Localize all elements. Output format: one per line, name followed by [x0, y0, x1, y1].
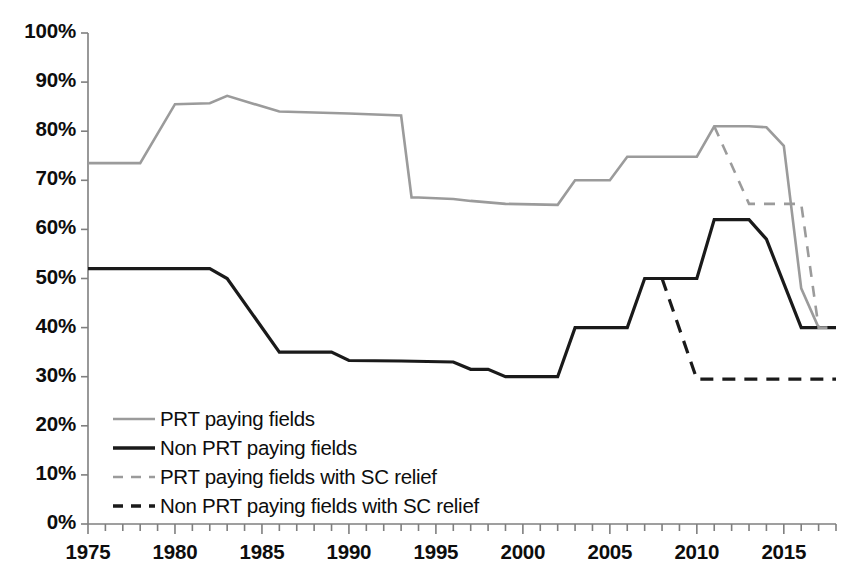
- chart-line-series-2: [714, 126, 836, 327]
- y-axis-tick-label: 10%: [36, 461, 76, 485]
- chart-line-series-0: [88, 96, 836, 328]
- x-axis-tick-label: 2015: [744, 540, 824, 564]
- y-axis-tick-label: 100%: [24, 19, 76, 43]
- y-axis-tick-label: 80%: [36, 117, 76, 141]
- y-axis-tick-label: 40%: [36, 314, 76, 338]
- x-axis-tick-label: 1995: [396, 540, 476, 564]
- legend-item-label: Non PRT paying fields: [160, 436, 357, 460]
- x-axis-tick-label: 2010: [657, 540, 737, 564]
- y-axis-tick-label: 50%: [36, 265, 76, 289]
- chart-series-layer: [88, 96, 836, 379]
- x-axis-tick-label: 2005: [570, 540, 650, 564]
- legend-swatch-icon: [113, 499, 155, 513]
- y-axis-tick-label: 60%: [36, 215, 76, 239]
- legend-item-label: PRT paying fields with SC relief: [160, 465, 437, 489]
- chart-container: 100%90%80%70%60%50%40%30%20%10%0% 197519…: [0, 0, 863, 587]
- legend-item: Non PRT paying fields with SC relief: [113, 491, 479, 520]
- legend-swatch-icon: [113, 470, 155, 484]
- legend-item: PRT paying fields with SC relief: [113, 462, 479, 491]
- legend-swatch-icon: [113, 441, 155, 455]
- legend-item-label: PRT paying fields: [160, 407, 315, 431]
- chart-line-series-1: [88, 220, 836, 377]
- x-axis-tick-label: 1990: [309, 540, 389, 564]
- legend-item: PRT paying fields: [113, 404, 479, 433]
- y-axis-tick-label: 70%: [36, 166, 76, 190]
- y-axis-tick-label: 0%: [47, 510, 76, 534]
- y-axis-tick-label: 20%: [36, 412, 76, 436]
- x-axis-tick-label: 1985: [222, 540, 302, 564]
- y-axis-tick-label: 90%: [36, 68, 76, 92]
- x-axis-tick-label: 2000: [483, 540, 563, 564]
- legend-swatch-icon: [113, 412, 155, 426]
- legend-item-label: Non PRT paying fields with SC relief: [160, 494, 479, 518]
- chart-legend: PRT paying fieldsNon PRT paying fieldsPR…: [113, 404, 479, 520]
- x-axis-tick-label: 1980: [135, 540, 215, 564]
- x-axis-tick-label: 1975: [48, 540, 128, 564]
- legend-item: Non PRT paying fields: [113, 433, 479, 462]
- y-axis-tick-label: 30%: [36, 363, 76, 387]
